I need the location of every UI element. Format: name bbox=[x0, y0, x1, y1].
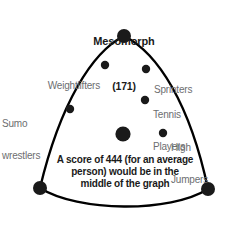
somatotype-triangle-diagram: Mesomorph (171) (711) Endomorph (117) Ec… bbox=[0, 0, 249, 228]
data-dot-average-person bbox=[115, 126, 130, 141]
group-label-high-jumpers-line-1: High bbox=[171, 143, 241, 154]
group-label-tennis-players-line-1: Tennis bbox=[153, 110, 219, 121]
diagram-caption: A score of 444 (for an average person) w… bbox=[30, 154, 220, 191]
group-label-weightlifters-line-1: Weightlifters bbox=[32, 81, 100, 92]
group-label-sumo-wrestlers-line-1: Sumo bbox=[2, 119, 62, 130]
vertex-name-mesomorph: Mesomorph bbox=[74, 36, 174, 48]
vertex-label-endomorph: (711) Endomorph bbox=[5, 194, 91, 228]
